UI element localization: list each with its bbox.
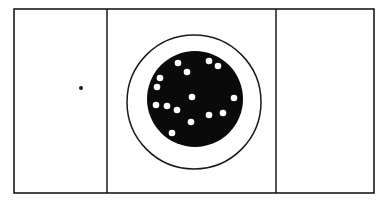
white-dot (231, 95, 238, 102)
white-dot (188, 119, 195, 126)
white-dot (220, 110, 227, 117)
white-dot (206, 58, 213, 65)
three-panel-diagram (0, 0, 384, 201)
white-dot (153, 102, 160, 109)
white-dot (184, 69, 191, 76)
white-dot (164, 103, 171, 110)
white-dot (215, 63, 222, 70)
white-dot (169, 130, 176, 137)
left-panel-dot (79, 86, 83, 90)
black-disk (147, 51, 243, 147)
white-dot (206, 112, 213, 119)
white-dot (157, 75, 164, 82)
white-dot (189, 94, 196, 101)
white-dot (154, 84, 161, 91)
white-dot (174, 107, 181, 114)
white-dot (175, 60, 182, 67)
